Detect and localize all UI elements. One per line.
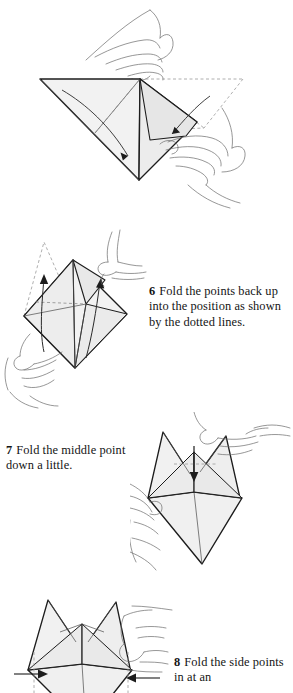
step-7-number: 7: [6, 443, 12, 457]
step-6-instruction: Fold the points back up into the positio…: [149, 284, 281, 329]
step-7-instruction: Fold the middle point down a little.: [6, 443, 125, 472]
step-8-number: 8: [174, 655, 180, 669]
step-6-text: 6Fold the points back up into the positi…: [149, 284, 291, 330]
step-8-text: 8Fold the side points in at an: [174, 655, 292, 686]
instruction-page: 6Fold the points back up into the positi…: [0, 0, 293, 693]
step-8-instruction: Fold the side points in at an: [174, 655, 284, 684]
step-5-illustration: [0, 0, 293, 225]
step-6-illustration: [0, 228, 150, 413]
step-7-text: 7Fold the middle point down a little.: [6, 443, 146, 474]
step-8-illustration: [0, 592, 180, 693]
step-6-number: 6: [149, 284, 155, 298]
step-7-illustration: [130, 412, 293, 592]
